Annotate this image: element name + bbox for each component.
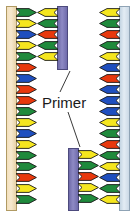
nucleotide-base — [99, 8, 120, 17]
leader-to-bottom-primer — [68, 112, 80, 147]
nucleotide-base — [16, 8, 37, 17]
nucleotide-base — [16, 184, 37, 193]
nucleotide-base — [16, 118, 37, 127]
primer-label: Primer — [42, 95, 86, 110]
nucleotide-base — [99, 41, 120, 50]
nucleotide-base — [99, 74, 120, 83]
dna-primer-diagram: Primer — [0, 0, 136, 217]
nucleotide-base — [78, 161, 99, 170]
nucleotide-base — [16, 85, 37, 94]
nucleotide-base — [78, 194, 99, 203]
nucleotide-base — [16, 140, 37, 149]
nucleotide-base — [99, 195, 120, 204]
nucleotide-base — [99, 107, 120, 116]
leader-to-top-primer — [60, 71, 70, 92]
nucleotide-base — [16, 107, 37, 116]
nucleotide-base — [37, 30, 58, 39]
nucleotide-base — [16, 173, 37, 182]
nucleotide-base — [16, 19, 37, 28]
nucleotide-base — [37, 8, 58, 17]
nucleotide-base — [99, 96, 120, 105]
nucleotide-base — [99, 129, 120, 138]
nucleotide-base — [16, 52, 37, 61]
nucleotide-base — [16, 151, 37, 160]
nucleotide-base — [99, 30, 120, 39]
top-primer-backbone — [57, 6, 68, 70]
nucleotide-base — [99, 173, 120, 182]
nucleotide-base — [37, 19, 58, 28]
right-template-backbone — [119, 6, 130, 211]
nucleotide-base — [99, 118, 120, 127]
nucleotide-base — [99, 151, 120, 160]
nucleotide-base — [99, 184, 120, 193]
nucleotide-base — [16, 162, 37, 171]
nucleotide-base — [16, 96, 37, 105]
nucleotide-base — [99, 19, 120, 28]
nucleotide-base — [16, 129, 37, 138]
nucleotide-base — [99, 162, 120, 171]
nucleotide-base — [16, 30, 37, 39]
nucleotide-base — [78, 183, 99, 192]
nucleotide-base — [99, 85, 120, 94]
nucleotide-base — [16, 41, 37, 50]
nucleotide-base — [99, 63, 120, 72]
nucleotide-base — [16, 195, 37, 204]
nucleotide-base — [78, 150, 99, 159]
nucleotide-base — [37, 41, 58, 50]
nucleotide-base — [99, 140, 120, 149]
nucleotide-base — [99, 52, 120, 61]
nucleotide-base — [16, 63, 37, 72]
nucleotide-base — [37, 52, 58, 61]
nucleotide-base — [78, 172, 99, 181]
nucleotide-base — [16, 74, 37, 83]
